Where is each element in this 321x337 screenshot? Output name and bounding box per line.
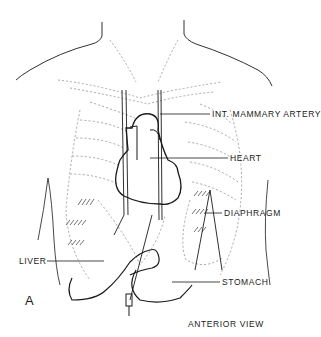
- rib-cage: [66, 102, 242, 280]
- label-heart: HEART: [230, 154, 262, 163]
- torso-outline: [16, 20, 272, 86]
- label-int-mammary-artery: INT. MAMMARY ARTERY: [212, 110, 321, 119]
- figure-caption: ANTERIOR VIEW: [188, 320, 264, 329]
- intercostal-shading: [66, 191, 210, 245]
- label-liver: LIVER: [19, 257, 47, 266]
- label-diaphragm: DIAPHRAGM: [224, 209, 281, 218]
- mammary-artery-lines: [114, 90, 222, 300]
- panel-letter: A: [25, 294, 34, 307]
- flank-lines: [38, 178, 270, 285]
- heart-drawing: [116, 114, 181, 205]
- label-stomach: STOMACH: [222, 278, 269, 287]
- clavicle-lines: [58, 40, 222, 104]
